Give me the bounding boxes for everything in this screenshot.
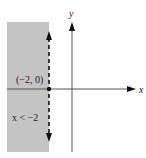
point-marker [47, 87, 51, 91]
shaded-region [7, 22, 49, 152]
inequality-graph: x y (−2, 0) x < −2 [0, 0, 146, 158]
inequality-label: x < −2 [12, 112, 38, 123]
x-axis-label: x [138, 84, 144, 95]
y-axis-arrow-icon [69, 22, 75, 31]
point-label: (−2, 0) [16, 74, 43, 86]
x-axis-arrow-icon [127, 86, 136, 92]
y-axis-label: y [68, 8, 74, 19]
